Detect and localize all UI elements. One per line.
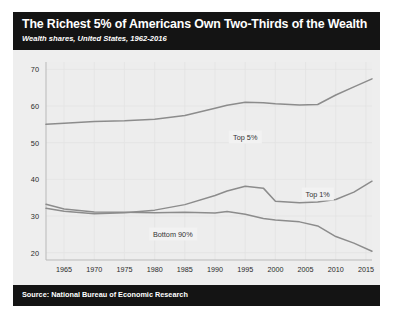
chart-canvas [13,50,380,285]
y-axis-tick-label: 50 [19,138,39,147]
series-label: Bottom 90% [149,228,197,241]
series-label: Top 5% [229,131,261,144]
y-axis-tick-label: 20 [19,248,39,257]
x-axis-tick-label: 2005 [291,265,321,274]
x-axis-tick-label: 1985 [170,265,200,274]
source-band: Source: National Bureau of Economic Rese… [13,285,380,306]
x-axis-tick-label: 1975 [109,265,139,274]
plot-area: 2030405060701965197019751980198519901995… [13,50,380,285]
x-axis-tick-label: 1980 [140,265,170,274]
chart-subtitle: Wealth shares, United States, 1962-2016 [22,33,380,44]
chart-figure: The Richest 5% of Americans Own Two-Thir… [0,0,393,319]
x-axis-tick-label: 2000 [260,265,290,274]
series-label: Top 1% [301,188,333,201]
source-text: Source: National Bureau of Economic Rese… [22,290,380,299]
x-axis-tick-label: 1970 [79,265,109,274]
x-axis-tick-label: 2010 [321,265,351,274]
y-axis-tick-label: 70 [19,65,39,74]
title-band: The Richest 5% of Americans Own Two-Thir… [13,12,380,50]
y-axis-tick-label: 30 [19,212,39,221]
y-axis-tick-label: 40 [19,175,39,184]
x-axis-tick-label: 1990 [200,265,230,274]
x-axis-tick-label: 1995 [230,265,260,274]
x-axis-tick-label: 2015 [351,265,381,274]
y-axis-tick-label: 60 [19,102,39,111]
page-title: The Richest 5% of Americans Own Two-Thir… [22,17,380,32]
x-axis-tick-label: 1965 [49,265,79,274]
